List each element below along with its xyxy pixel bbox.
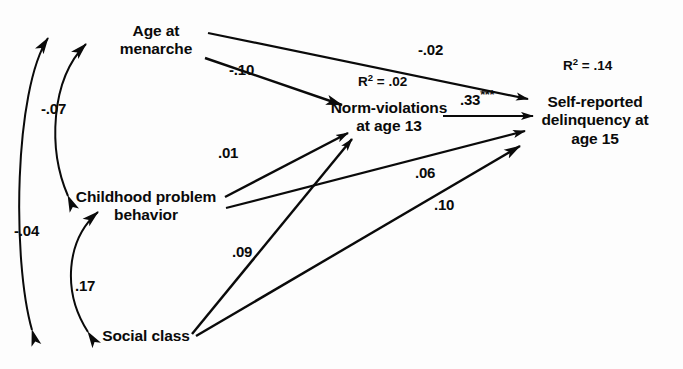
coefficient-value: .10 — [434, 196, 454, 213]
path-social-to-norm — [192, 139, 352, 334]
path-diagram: Age at menarche Childhood problem behavi… — [0, 0, 683, 369]
node-norm-violations: Norm-violations at age 13 — [330, 99, 448, 136]
node-label-line: Norm-violations — [330, 99, 448, 117]
coefficient-value: -.02 — [418, 41, 443, 58]
node-social-class: Social class — [94, 327, 198, 345]
path-menarche-social-correlation — [19, 38, 48, 330]
path-lines-layer — [0, 0, 683, 369]
node-age-at-menarche: Age at menarche — [104, 22, 208, 59]
r-squared-symbol: R — [563, 58, 573, 73]
coefficient-menarche-childhood-correlation: -.07 — [41, 100, 66, 117]
path-menarche-childhood-correlation — [55, 44, 86, 196]
node-label-line: delinquency at — [533, 111, 657, 129]
r-squared-symbol: R — [358, 74, 368, 89]
node-self-reported-delinquency: Self-reported delinquency at age 15 — [533, 93, 657, 148]
coefficient-norm-to-delinquency: .33*** — [460, 91, 494, 108]
node-label-line: at age 13 — [330, 117, 448, 135]
path-menarche-to-norm — [205, 58, 342, 105]
coefficient-value: .17 — [75, 277, 95, 294]
node-label-line: Social class — [94, 327, 198, 345]
coefficient-value: -.10 — [229, 61, 254, 78]
coefficient-menarche-social-correlation: -.04 — [14, 222, 39, 239]
node-label-line: Age at — [104, 22, 208, 40]
r-squared-norm-violations: R2 = .02 — [358, 74, 407, 89]
coefficient-menarche-to-delinquency: -.02 — [418, 41, 443, 58]
r-squared-value: = .02 — [377, 74, 407, 89]
coefficient-value: -.07 — [41, 100, 66, 117]
node-label-line: Self-reported — [533, 93, 657, 111]
coefficient-childhood-to-delinquency: .06 — [415, 164, 435, 181]
coefficient-childhood-to-norm: .01 — [218, 144, 238, 161]
coefficient-value: .06 — [415, 164, 435, 181]
node-childhood-problem-behavior: Childhood problem behavior — [66, 188, 226, 225]
r-squared-value: = .14 — [582, 58, 612, 73]
coefficient-value: .33 — [460, 91, 480, 108]
significance-stars: *** — [480, 87, 494, 102]
r-squared-delinquency: R2 = .14 — [563, 58, 612, 73]
node-label-line: Childhood problem — [66, 188, 226, 206]
coefficient-value: .01 — [218, 144, 238, 161]
coefficient-value: -.04 — [14, 222, 39, 239]
coefficient-social-to-delinquency: .10 — [434, 196, 454, 213]
coefficient-menarche-to-norm: -.10 — [229, 61, 254, 78]
coefficient-value: .09 — [232, 243, 252, 260]
path-childhood-social-correlation — [71, 212, 98, 332]
node-label-line: menarche — [104, 40, 208, 58]
coefficient-social-to-norm: .09 — [232, 243, 252, 260]
node-label-line: age 15 — [533, 130, 657, 148]
r-squared-exponent: 2 — [573, 56, 578, 67]
r-squared-exponent: 2 — [368, 72, 373, 83]
coefficient-childhood-social-correlation: .17 — [75, 277, 95, 294]
node-label-line: behavior — [66, 206, 226, 224]
